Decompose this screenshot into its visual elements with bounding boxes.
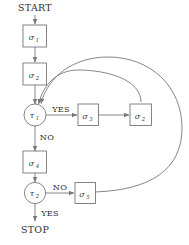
node-sigma4-subscript: 4 (35, 163, 40, 169)
node-sigma2-main-subscript: 2 (35, 75, 40, 81)
branch-label-tau1-yes: YES (51, 104, 70, 114)
node-sigma1-symbol: σ (29, 33, 35, 42)
node-tau2-subscript: 2 (35, 193, 40, 199)
node-sigma2-right-symbol: σ (135, 112, 141, 121)
node-tau1-subscript: 1 (36, 115, 39, 121)
branch-label-tau2-no: NO (53, 182, 67, 192)
node-sigma1-subscript: 1 (36, 37, 39, 43)
node-sigma3-symbol: σ (82, 112, 88, 121)
node-sigma5-subscript: 5 (86, 194, 90, 200)
branch-label-tau2-yes: YES (40, 208, 59, 218)
flowchart-text-layer: START STOP σ 1 σ 2 σ 3 σ 2 σ 4 σ 5 τ 1 τ… (0, 0, 189, 245)
node-sigma4-symbol: σ (29, 159, 35, 168)
terminal-stop-label: STOP (21, 224, 50, 235)
branch-label-tau1-no: NO (40, 132, 54, 142)
node-sigma2-right-subscript: 2 (141, 116, 146, 122)
node-sigma2-main-symbol: σ (29, 71, 35, 80)
terminal-start-label: START (18, 2, 52, 13)
flowchart-canvas: START STOP σ 1 σ 2 σ 3 σ 2 σ 4 σ 5 τ 1 τ… (0, 0, 189, 245)
node-sigma5-symbol: σ (79, 190, 85, 199)
node-sigma3-subscript: 3 (89, 116, 93, 122)
node-tau1-symbol: τ (30, 111, 35, 120)
node-tau2-symbol: τ (30, 189, 35, 198)
